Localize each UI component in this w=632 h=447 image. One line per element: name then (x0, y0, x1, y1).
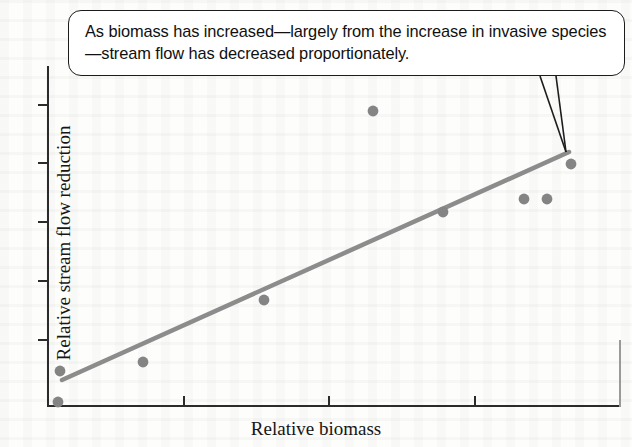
y-axis-label: Relative stream flow reduction (53, 83, 75, 403)
data-point (566, 159, 577, 170)
annotation-callout: As biomass has increased—largely from th… (68, 10, 625, 76)
trend-line (62, 152, 569, 380)
data-point (259, 295, 270, 306)
axis-frame (48, 66, 621, 407)
callout-pointer-tail (540, 76, 566, 152)
data-point (519, 194, 530, 205)
data-point (138, 357, 149, 368)
x-axis-label: Relative biomass (0, 418, 632, 440)
data-point (438, 207, 449, 218)
annotation-callout-text: As biomass has increased—largely from th… (85, 20, 608, 64)
data-point (542, 194, 553, 205)
x-axis-ticks (184, 396, 475, 406)
data-point-group (53, 106, 577, 408)
data-point (368, 106, 379, 117)
figure-page: As biomass has increased—largely from th… (0, 0, 632, 447)
y-axis-ticks (38, 105, 48, 340)
